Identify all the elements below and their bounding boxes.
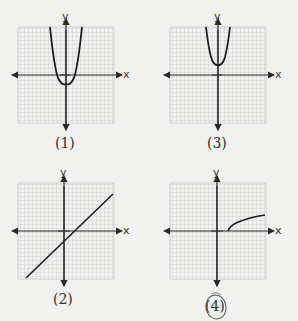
panel-label-4: (4) [205,298,225,314]
panel-label-1: (1) [55,135,75,151]
panel-label-2: (2) [53,291,73,307]
y-axis-label-1: y [62,10,69,23]
graph-3 [164,19,274,130]
x-axis-label-2: x [123,224,130,237]
x-axis-label-4: x [275,224,282,237]
graphs-canvas [0,0,298,321]
y-axis-label-2: y [60,166,67,179]
panel-label-3: (3) [207,135,227,151]
x-axis-label-3: x [275,68,282,81]
graph-1 [12,19,122,130]
y-axis-label-3: y [214,10,221,23]
y-axis-label-4: y [213,166,220,179]
x-axis-label-1: x [123,68,130,81]
graph-4 [164,176,274,286]
graph-2 [12,176,122,286]
